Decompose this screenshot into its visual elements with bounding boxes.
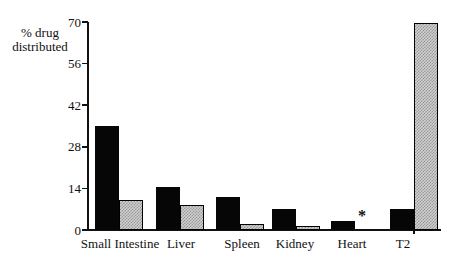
bar-stipple-small-intestine [119,200,143,230]
category-label-spleen: Spleen [224,237,259,250]
bar-stipple-kidney [296,226,320,230]
annotation-asterisk-heart: * [358,208,366,224]
category-label-liver: Liver [167,237,195,250]
category-label-small-intestine: Small Intestine [81,237,159,250]
y-tick-label-14: 14 [51,182,81,195]
category-label-heart: Heart [338,237,367,250]
y-axis-title: % drug distributed [0,26,80,54]
bar-solid-spleen [216,197,240,230]
category-label-t2: T2 [396,237,410,250]
category-label-kidney: Kidney [276,237,314,250]
y-tick-56 [82,63,88,65]
y-tick-70 [82,21,88,23]
bar-stipple-liver [180,205,204,230]
bar-solid-small-intestine [95,126,119,230]
y-tick-label-42: 42 [51,99,81,112]
y-tick-label-28: 28 [51,140,81,153]
x-tick-t2 [413,230,415,234]
y-axis-title-line2: distributed [0,40,80,54]
bar-solid-t2 [390,209,414,230]
y-tick-label-0: 0 [51,224,81,237]
y-axis-line [87,22,89,231]
y-tick-28 [82,146,88,148]
distribution-bar-chart: % drug distributed 01428425670Small Inte… [0,0,461,260]
bar-solid-kidney [272,209,296,230]
bar-solid-heart [331,221,355,230]
y-tick-42 [82,104,88,106]
bar-stipple-t2 [414,23,438,230]
y-tick-label-56: 56 [51,57,81,70]
y-tick-14 [82,188,88,190]
y-tick-label-70: 70 [51,16,81,29]
bar-solid-liver [156,187,180,230]
bar-stipple-spleen [240,224,264,230]
y-tick-0 [82,229,88,231]
